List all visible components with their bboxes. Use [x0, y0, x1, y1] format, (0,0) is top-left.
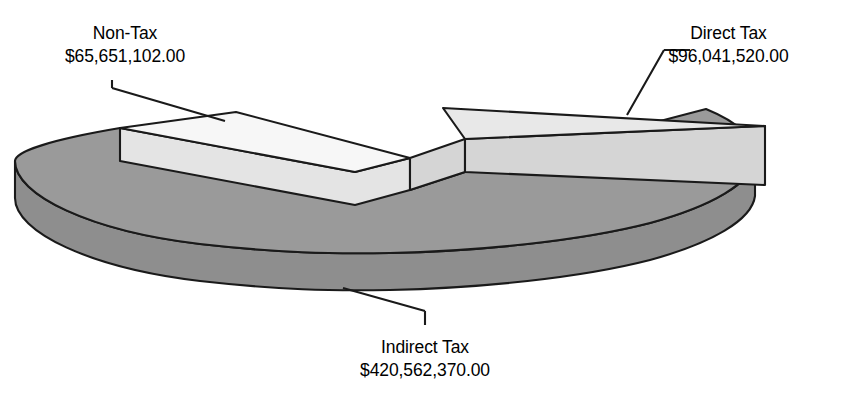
- direct-tax-label-value: $96,041,520.00: [612, 45, 845, 68]
- slice-label-non-tax: Non-Tax $65,651,102.00: [0, 22, 250, 68]
- indirect-tax-label-name: Indirect Tax: [300, 336, 550, 359]
- direct-tax-label-name: Direct Tax: [612, 22, 845, 45]
- slice-label-direct-tax: Direct Tax $96,041,520.00: [612, 22, 845, 68]
- leader-line-indirect-tax: [343, 288, 425, 325]
- pie-chart-figure: Non-Tax $65,651,102.00 Direct Tax $96,04…: [0, 0, 845, 404]
- slice-label-indirect-tax: Indirect Tax $420,562,370.00: [300, 336, 550, 382]
- non-tax-label-name: Non-Tax: [0, 22, 250, 45]
- non-tax-label-value: $65,651,102.00: [0, 45, 250, 68]
- indirect-tax-label-value: $420,562,370.00: [300, 359, 550, 382]
